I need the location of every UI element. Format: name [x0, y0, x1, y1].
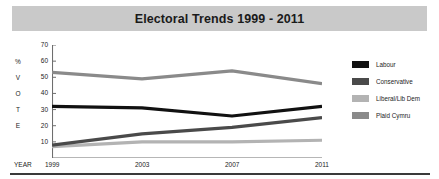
legend-swatch-icon — [352, 61, 369, 68]
y-axis-tick-label: 60 — [41, 57, 48, 65]
legend-item[interactable]: Labour — [352, 56, 436, 73]
line-chart-svg — [52, 45, 322, 158]
chart-figure: Electoral Trends 1999 - 2011 %VOTE 10203… — [0, 0, 439, 179]
chart-title-banner: Electoral Trends 1999 - 2011 — [12, 6, 427, 31]
plot-area — [52, 45, 322, 158]
y-axis-tick-label: 50 — [41, 73, 48, 81]
y-axis-tick-label: 20 — [41, 122, 48, 130]
y-axis-title-char: O — [15, 86, 20, 102]
legend-swatch-icon — [352, 95, 369, 102]
x-axis-tick-label: 2007 — [225, 161, 239, 168]
legend-swatch-icon — [352, 78, 369, 85]
y-axis-title-char: T — [16, 102, 20, 118]
y-axis-tick-label: 10 — [41, 138, 48, 146]
series-line-labour — [52, 106, 322, 116]
y-axis-title-char: % — [15, 54, 21, 70]
legend-item-label: Plaid Cymru — [376, 112, 410, 119]
series-line-plaid-cymru — [52, 71, 322, 84]
legend-item[interactable]: Plaid Cymru — [352, 107, 436, 124]
y-axis-title-char: E — [16, 118, 20, 134]
chart-legend: LabourConservativeLiberal/Lib DemPlaid C… — [352, 56, 436, 124]
x-axis-tick-label: 1999 — [45, 161, 59, 168]
y-axis-tick-label: 70 — [41, 41, 48, 49]
legend-swatch-icon — [352, 112, 369, 119]
legend-item-label: Conservative — [376, 78, 413, 85]
y-axis-tick-labels: 10203040506070 — [24, 38, 48, 164]
legend-item-label: Labour — [376, 61, 396, 68]
x-axis-tick-labels: 1999200320072011 — [52, 161, 332, 171]
y-axis-tick-label: 40 — [41, 89, 48, 97]
legend-item[interactable]: Conservative — [352, 73, 436, 90]
x-axis-tick-label: 2003 — [135, 161, 149, 168]
y-axis-title-char: V — [16, 70, 20, 86]
y-axis-tick-label: 30 — [41, 106, 48, 114]
footer-divider — [10, 173, 430, 175]
page-title: Electoral Trends 1999 - 2011 — [135, 12, 305, 26]
x-axis-tick-label: 2011 — [315, 161, 329, 168]
y-axis-title: %VOTE — [12, 54, 24, 134]
legend-item[interactable]: Liberal/Lib Dem — [352, 90, 436, 107]
legend-item-label: Liberal/Lib Dem — [376, 95, 420, 102]
x-axis-title: YEAR — [14, 161, 32, 168]
